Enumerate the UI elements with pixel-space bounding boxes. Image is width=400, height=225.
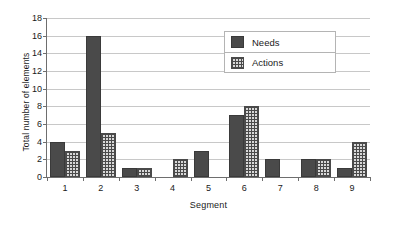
legend-swatch-needs-icon xyxy=(231,36,244,48)
bar-needs-segment-7 xyxy=(265,159,280,177)
bar-actions-segment-4 xyxy=(173,159,188,177)
x-tick-mark xyxy=(226,177,227,181)
legend-swatch-actions-icon xyxy=(231,57,244,69)
y-tick-label: 16 xyxy=(32,31,42,41)
legend-item-actions: Actions xyxy=(225,52,335,72)
y-axis-line xyxy=(46,18,47,178)
x-tick-label: 5 xyxy=(206,183,211,193)
bar-actions-segment-6 xyxy=(244,106,259,177)
bar-actions-segment-8 xyxy=(316,159,331,177)
x-tick-mark xyxy=(191,177,192,181)
y-tick-mark xyxy=(43,124,47,125)
x-tick-label: 3 xyxy=(134,183,139,193)
bar-actions-segment-1 xyxy=(65,151,80,178)
bar-needs-segment-9 xyxy=(337,168,352,177)
y-tick-mark xyxy=(43,18,47,19)
x-tick-mark xyxy=(83,177,84,181)
bar-actions-segment-9 xyxy=(352,142,367,177)
bar-chart: Total number of elements 024681012141618… xyxy=(0,0,400,225)
y-tick-mark xyxy=(43,89,47,90)
y-tick-mark xyxy=(43,71,47,72)
y-tick-label: 4 xyxy=(37,137,42,147)
bar-needs-segment-2 xyxy=(86,36,101,177)
y-tick-label: 6 xyxy=(37,119,42,129)
bar-needs-segment-6 xyxy=(229,115,244,177)
y-tick-label: 18 xyxy=(32,13,42,23)
legend-item-needs: Needs xyxy=(225,32,335,52)
legend-label-actions: Actions xyxy=(252,57,283,68)
x-tick-mark xyxy=(298,177,299,181)
x-tick-label: 1 xyxy=(62,183,67,193)
x-tick-label: 6 xyxy=(242,183,247,193)
x-tick-mark xyxy=(334,177,335,181)
x-tick-label: 4 xyxy=(170,183,175,193)
y-tick-mark xyxy=(43,53,47,54)
x-tick-mark xyxy=(262,177,263,181)
y-tick-label: 2 xyxy=(37,154,42,164)
y-tick-label: 14 xyxy=(32,48,42,58)
y-tick-mark xyxy=(43,106,47,107)
x-tick-mark xyxy=(370,177,371,181)
gridline xyxy=(47,18,370,19)
x-axis-title: Segment xyxy=(47,200,370,210)
y-tick-label: 10 xyxy=(32,84,42,94)
y-tick-mark xyxy=(43,159,47,160)
x-tick-label: 7 xyxy=(278,183,283,193)
x-axis-line xyxy=(46,177,371,178)
y-axis-title: Total number of elements xyxy=(21,22,31,182)
x-tick-mark xyxy=(47,177,48,181)
x-tick-mark xyxy=(155,177,156,181)
bar-actions-segment-2 xyxy=(101,133,116,177)
x-tick-label: 8 xyxy=(314,183,319,193)
bar-needs-segment-1 xyxy=(50,142,65,177)
x-tick-label: 9 xyxy=(350,183,355,193)
bar-actions-segment-3 xyxy=(137,168,152,177)
legend-label-needs: Needs xyxy=(252,37,279,48)
bar-needs-segment-8 xyxy=(301,159,316,177)
x-tick-label: 2 xyxy=(98,183,103,193)
x-tick-mark xyxy=(119,177,120,181)
y-tick-mark xyxy=(43,142,47,143)
legend: Needs Actions xyxy=(224,31,336,73)
y-tick-label: 8 xyxy=(37,101,42,111)
bar-needs-segment-5 xyxy=(194,151,209,178)
bar-needs-segment-3 xyxy=(122,168,137,177)
y-tick-label: 12 xyxy=(32,66,42,76)
y-tick-mark xyxy=(43,36,47,37)
y-tick-label: 0 xyxy=(37,172,42,182)
